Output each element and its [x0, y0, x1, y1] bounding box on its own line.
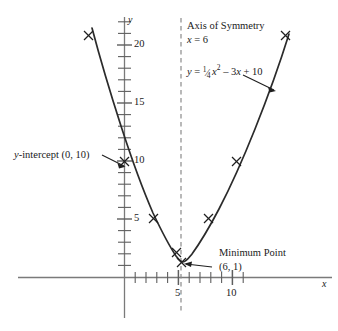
- data-point-marker: [204, 214, 213, 223]
- minimum-point-title: Minimum Point: [219, 247, 286, 259]
- data-point-marker: [232, 157, 241, 166]
- equation-fraction: 1⁄4: [203, 67, 212, 79]
- minimum-point-leader-arrow: [184, 262, 212, 268]
- x-tick-label-10: 10: [226, 287, 237, 299]
- equation-linear-term: – 3: [221, 66, 237, 77]
- data-point-marker: [84, 31, 93, 40]
- fraction-denominator: 4: [207, 71, 211, 80]
- x-axis-label: x: [322, 278, 326, 290]
- y-intercept-leader-arrow: [102, 155, 126, 169]
- plot-canvas: [0, 0, 338, 331]
- equation-equals: =: [192, 66, 203, 77]
- y-intercept-text: -intercept (0, 10): [19, 149, 90, 160]
- equation-constant-term: + 10: [241, 66, 263, 77]
- y-axis-label: y: [128, 14, 132, 26]
- y-tick-label-10: 10: [134, 154, 145, 166]
- x-tick-label-5: 5: [175, 287, 180, 299]
- axis-of-symmetry-eq: = 6: [192, 34, 208, 45]
- axis-of-symmetry-value: x = 6: [187, 34, 208, 46]
- equation-annotation: y = 1⁄4x2 – 3x + 10: [187, 64, 263, 79]
- minimum-point-coords: (6, 1): [219, 261, 242, 273]
- y-tick-label-15: 15: [134, 96, 145, 108]
- parabola-graph-figure: y x 20 15 10 5 5 10 Axis of Symmetry x =…: [0, 0, 338, 331]
- y-tick-label-20: 20: [134, 38, 145, 50]
- y-tick-label-5: 5: [134, 212, 139, 224]
- axis-of-symmetry-title: Axis of Symmetry: [187, 20, 265, 32]
- y-intercept-annotation: y-intercept (0, 10): [14, 149, 90, 161]
